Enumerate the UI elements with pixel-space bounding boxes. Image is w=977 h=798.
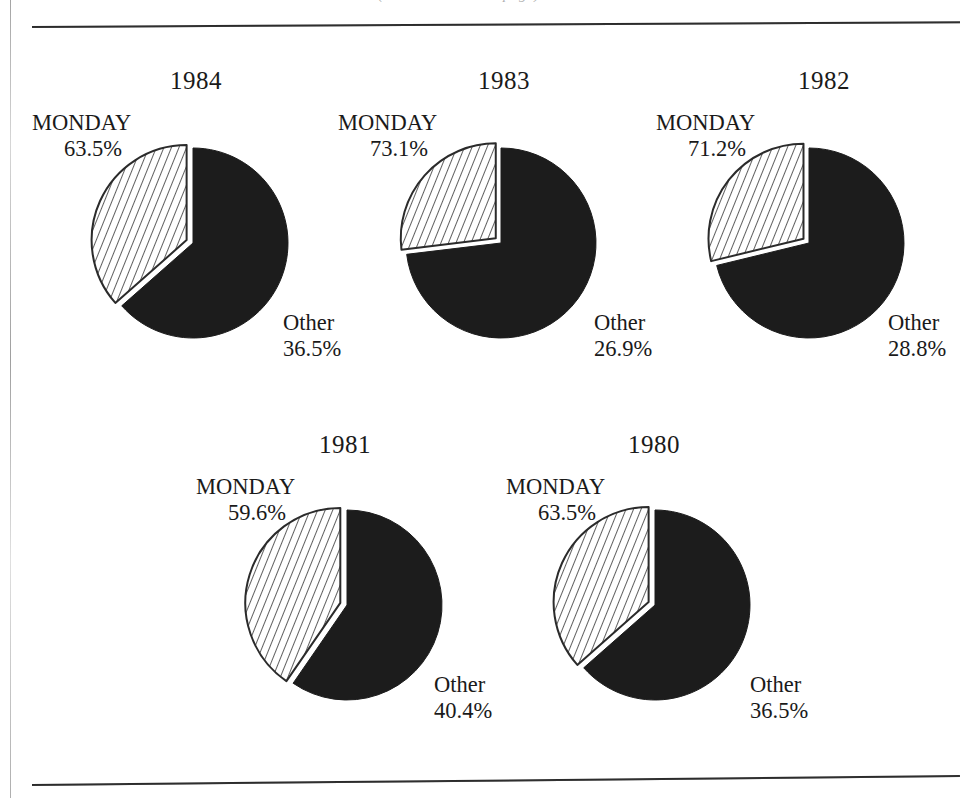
other-label-group: Other 36.5% [750, 672, 808, 725]
pie-chart-1980 [558, 508, 758, 714]
monday-label: MONDAY [506, 474, 634, 500]
pie-chart-1983 [404, 146, 604, 352]
pie-slice-other [401, 143, 496, 249]
clipped-caption-fragment: (continued on next page) [378, 0, 608, 2]
other-value: 36.5% [750, 698, 808, 724]
panel-year-label: 1982 [754, 68, 894, 93]
panel-year-label: 1983 [434, 68, 574, 93]
panel-year-label: 1980 [584, 432, 724, 457]
bottom-rule [32, 775, 960, 786]
panel-year-label: 1984 [126, 68, 266, 93]
pie-chart-1982 [712, 146, 912, 352]
monday-label: MONDAY [656, 110, 784, 136]
panel-year-label: 1981 [275, 432, 415, 457]
pie-slice-other [708, 144, 803, 261]
pie-chart-1984 [96, 146, 296, 352]
top-rule [32, 21, 960, 28]
monday-label: MONDAY [32, 110, 160, 136]
page-edge-artifact [10, 0, 11, 798]
monday-label: MONDAY [338, 110, 466, 136]
other-label: Other [750, 672, 808, 698]
pie-chart-1981 [250, 508, 450, 714]
monday-label: MONDAY [196, 474, 324, 500]
